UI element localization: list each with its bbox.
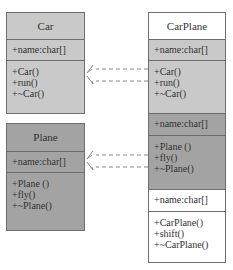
dashed-arrow-carplane-to-plane-1	[87, 151, 148, 159]
dashed-arrow-carplane-to-car-2	[87, 76, 148, 84]
relation-arrows	[0, 0, 233, 270]
dashed-arrow-carplane-to-car-1	[87, 65, 148, 73]
dashed-arrow-carplane-to-plane-2	[87, 162, 148, 170]
